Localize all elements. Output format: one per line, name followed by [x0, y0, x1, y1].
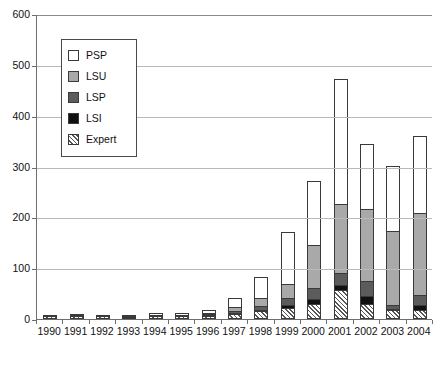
x-axis-tick-label: 1999 — [274, 326, 300, 338]
x-axis-tick-label: 2004 — [406, 326, 432, 338]
bar-segment-expert — [228, 314, 242, 319]
bar-segment-expert — [413, 310, 427, 319]
bar-group — [149, 313, 163, 319]
legend-item-lsu: LSU — [68, 66, 136, 87]
x-axis-tick-mark — [353, 320, 354, 324]
x-axis-tick-mark — [89, 320, 90, 324]
bar-segment-expert — [70, 316, 84, 319]
y-axis-tick-label: 0 — [0, 314, 30, 325]
dark-gray-square-icon — [68, 92, 79, 103]
bar-segment-expert — [175, 316, 189, 319]
x-axis-tick-mark — [432, 320, 433, 324]
y-axis-tick-label: 300 — [0, 162, 30, 173]
gridline — [37, 15, 432, 16]
gridline — [37, 168, 432, 169]
legend-label: LSI — [86, 113, 102, 124]
x-axis-tick-mark — [62, 320, 63, 324]
x-axis-tick-label: 2001 — [326, 326, 352, 338]
stacked-bar-chart: 0100200300400500600 19901991199219931994… — [0, 0, 439, 367]
bar-group — [386, 166, 400, 319]
x-axis-tick-label: 1998 — [247, 326, 273, 338]
x-axis-tick-label: 1995 — [168, 326, 194, 338]
bar-segment-expert — [202, 316, 216, 319]
bar-group — [254, 277, 268, 319]
bar-segment-lsu — [360, 209, 374, 282]
y-axis-tick-label: 600 — [0, 9, 30, 20]
legend-item-psp: PSP — [68, 45, 136, 66]
x-axis-tick-mark — [168, 320, 169, 324]
x-axis-tick-label: 2003 — [379, 326, 405, 338]
y-axis-tick-mark — [32, 218, 36, 219]
legend-label: LSP — [86, 92, 106, 103]
x-axis-tick-mark — [326, 320, 327, 324]
bar-segment-expert — [334, 290, 348, 319]
bar-segment-expert — [122, 317, 136, 319]
bar-segment-expert — [281, 308, 295, 319]
y-axis-tick-mark — [32, 15, 36, 16]
bar-segment-psp — [413, 136, 427, 214]
y-axis-tick-mark — [32, 168, 36, 169]
x-axis-tick-label: 2002 — [353, 326, 379, 338]
bar-segment-psp — [386, 166, 400, 231]
bar-segment-expert — [307, 304, 321, 319]
bar-segment-psp — [360, 144, 374, 210]
x-axis-tick-label: 2000 — [300, 326, 326, 338]
gridline — [37, 269, 432, 270]
bar-segment-psp — [307, 181, 321, 246]
bar-segment-expert — [149, 316, 163, 319]
light-gray-square-icon — [68, 71, 79, 82]
bar-group — [43, 315, 57, 319]
legend-label: LSU — [86, 71, 106, 82]
bar-group — [360, 144, 374, 319]
bar-group — [96, 315, 110, 319]
gridline — [37, 218, 432, 219]
x-axis-tick-mark — [115, 320, 116, 324]
bar-segment-expert — [43, 316, 57, 319]
bar-segment-expert — [254, 311, 268, 319]
bar-segment-lsu — [413, 213, 427, 296]
y-axis-tick-label: 500 — [0, 60, 30, 71]
x-axis-tick-label: 1996 — [194, 326, 220, 338]
legend-item-lsp: LSP — [68, 87, 136, 108]
x-axis-tick-label: 1992 — [89, 326, 115, 338]
bar-group — [307, 181, 321, 319]
x-axis-tick-label: 1993 — [115, 326, 141, 338]
y-axis-tick-mark — [32, 117, 36, 118]
bar-group — [281, 232, 295, 319]
x-axis-tick-label: 1997 — [221, 326, 247, 338]
bar-segment-psp — [254, 277, 268, 298]
x-axis-tick-mark — [194, 320, 195, 324]
y-axis-tick-mark — [32, 269, 36, 270]
x-axis-tick-mark — [36, 320, 37, 324]
bar-group — [122, 315, 136, 319]
y-axis-tick-mark — [32, 66, 36, 67]
y-axis-tick-label: 400 — [0, 111, 30, 122]
x-axis-tick-label: 1990 — [36, 326, 62, 338]
x-axis-tick-mark — [247, 320, 248, 324]
bar-group — [228, 298, 242, 319]
y-axis-tick-label: 200 — [0, 212, 30, 223]
bar-segment-expert — [96, 316, 110, 319]
bar-segment-lsu — [386, 231, 400, 306]
x-axis-tick-label: 1991 — [62, 326, 88, 338]
y-axis-tick-label: 100 — [0, 263, 30, 274]
bar-segment-psp — [334, 79, 348, 205]
x-axis-tick-mark — [274, 320, 275, 324]
bar-segment-expert — [360, 304, 374, 319]
bar-group — [334, 79, 348, 319]
bar-group — [70, 314, 84, 319]
bar-group — [175, 313, 189, 319]
x-axis-tick-label: 1994 — [142, 326, 168, 338]
bar-segment-psp — [281, 232, 295, 285]
bar-segment-lsu — [281, 284, 295, 299]
legend-item-lsi: LSI — [68, 108, 136, 129]
bar-segment-lsp — [360, 281, 374, 296]
chart-legend: PSP LSU LSP LSI Expert — [61, 39, 137, 157]
legend-label: PSP — [86, 50, 107, 61]
bar-segment-lsu — [334, 204, 348, 274]
black-square-icon — [68, 113, 79, 124]
x-axis-tick-mark — [379, 320, 380, 324]
bar-group — [202, 310, 216, 319]
legend-item-expert: Expert — [68, 129, 136, 150]
white-square-icon — [68, 50, 79, 61]
